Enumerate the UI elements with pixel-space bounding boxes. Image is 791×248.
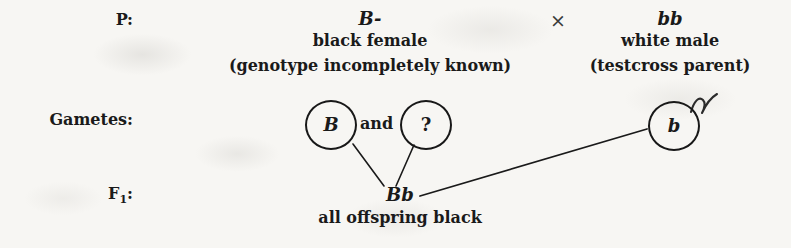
f1-offspring-description: all offspring black	[280, 210, 520, 226]
genetics-testcross-diagram: P: Gametes: F1: B- black female (genotyp…	[0, 0, 791, 248]
gamete-circle-b: b	[648, 101, 700, 151]
row-label-f1-colon: :	[127, 184, 133, 203]
gametes-conjunction: and	[360, 116, 393, 132]
male-parent-genotype: bb	[620, 10, 720, 28]
line-gameteb-to-offspring	[420, 129, 647, 196]
row-label-parental-text: P:	[116, 10, 133, 29]
male-parent-note: (testcross parent)	[578, 58, 762, 74]
line-gameteB-to-offspring	[353, 144, 384, 186]
female-parent-genotype: B-	[320, 10, 420, 28]
row-label-gametes-text: Gametes:	[49, 110, 133, 129]
row-label-gametes: Gametes:	[10, 112, 133, 128]
female-parent-description: black female	[270, 33, 470, 49]
gamete-circle-B: B	[305, 100, 357, 150]
gamete-unknown-label: ?	[421, 116, 432, 134]
male-parent-description: white male	[590, 33, 750, 49]
gamete-b-label: b	[668, 117, 681, 135]
row-label-f1: F1:	[40, 186, 133, 205]
row-label-parental: P:	[40, 12, 133, 28]
female-parent-note: (genotype incompletely known)	[212, 58, 528, 74]
gamete-B-label: B	[323, 116, 338, 134]
gamete-circle-unknown: ?	[400, 100, 452, 150]
row-label-f1-text: F	[108, 184, 119, 203]
line-gamete-unknown-to-offspring	[396, 145, 414, 186]
cross-symbol: ×	[548, 11, 568, 30]
f1-offspring-genotype: Bb	[355, 186, 445, 204]
row-label-f1-subscript: 1	[119, 193, 127, 206]
